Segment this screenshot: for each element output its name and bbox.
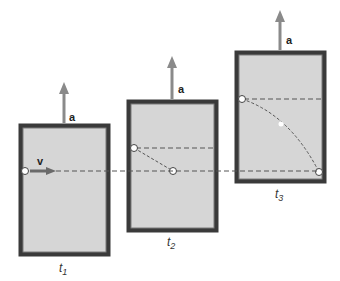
accel-arrow-icon-t1	[59, 82, 69, 94]
time-label-t3: t3	[275, 187, 283, 203]
accel-label-t2: a	[178, 83, 185, 95]
accel-label-t3: a	[286, 34, 293, 46]
frame-t2: a t2	[127, 56, 219, 251]
frame-t1: a v t1	[19, 92, 111, 277]
accel-label-t1: a	[69, 111, 76, 123]
accel-arrow-icon-t2	[167, 56, 177, 68]
accel-arrow-icon-t3	[275, 10, 285, 22]
ball-t1	[22, 168, 29, 175]
frame-interior-t1	[23, 128, 106, 252]
accelerating-frames-diagram: a v t1 a t2 a t3	[0, 0, 340, 281]
mid-point-t3	[279, 122, 284, 127]
velocity-label: v	[37, 155, 44, 167]
start-point-t2	[131, 145, 138, 152]
frame-interior-t2	[131, 104, 214, 228]
time-label-t2: t2	[167, 235, 175, 251]
time-label-t1: t1	[59, 261, 67, 277]
start-point-t3	[239, 96, 246, 103]
frame-interior-t3	[239, 55, 322, 179]
frame-t3: a t3	[235, 10, 327, 203]
ball-t3	[316, 169, 323, 176]
